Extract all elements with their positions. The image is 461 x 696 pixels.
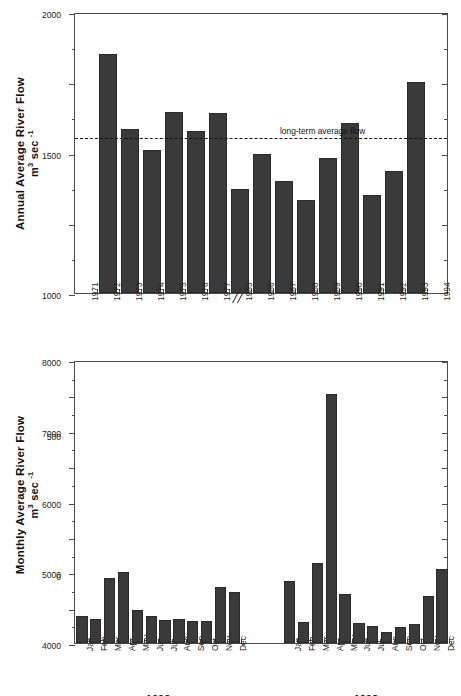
y-axis-minor-tick-right: [444, 380, 447, 381]
y-axis-tick-right: [442, 397, 447, 398]
y-axis-tick-label: 4000: [42, 641, 61, 651]
x-axis-label: 1971: [90, 282, 100, 301]
y-axis-tick: 1500: [69, 84, 75, 85]
axis-break-marker: [232, 287, 248, 303]
y-axis-minor-tick: [72, 557, 76, 558]
y-axis-minor-tick: [72, 415, 76, 416]
y-axis-tick-right: [442, 539, 447, 540]
x-axis-label: 1991: [376, 282, 386, 301]
x-axis-label: 1972: [112, 282, 122, 301]
y-axis-minor-tick: [72, 260, 76, 261]
y-axis-tick-label: 7000: [42, 429, 61, 439]
y-axis-minor-tick-right: [444, 190, 447, 191]
bar: [187, 131, 205, 293]
x-axis-label: Dec: [238, 636, 248, 651]
y-axis-tick: 1000: [69, 610, 75, 611]
y-axis-tick: 8000: [69, 362, 75, 363]
y-axis-minor-tick-right: [444, 521, 447, 522]
bar: [143, 150, 161, 293]
y-axis-tick-right: [442, 468, 447, 469]
x-axis-label: 1986: [266, 282, 276, 301]
x-axis-label: Dec: [446, 636, 456, 651]
y-axis-tick-label: 5000: [42, 570, 61, 580]
y-axis-minor-tick: [72, 592, 76, 593]
x-axis-label: 1987: [288, 282, 298, 301]
bar: [215, 587, 226, 643]
x-axis-label: 1993: [420, 282, 430, 301]
y-axis-minor-tick-right: [444, 415, 447, 416]
y-axis-tick-label: 1000: [42, 291, 61, 301]
y-axis-tick: 500: [69, 225, 75, 226]
y-axis-tick: 5000: [69, 468, 75, 469]
x-axis-label: 1990: [354, 282, 364, 301]
bar: [363, 195, 381, 293]
y-axis-tick-label: 6000: [42, 500, 61, 510]
monthly-y-axis-title-line2: m3 sec -1: [26, 350, 40, 640]
monthly-flow-figure: Monthly Average River Flow m3 sec -1 010…: [0, 340, 461, 696]
bar: [209, 113, 227, 293]
x-axis-label: 1989: [332, 282, 342, 301]
y-axis-tick: 7000: [69, 397, 75, 398]
y-axis-minor-tick-right: [444, 119, 447, 120]
y-axis-tick-right: [442, 14, 447, 15]
y-axis-minor-tick: [72, 380, 76, 381]
y-axis-tick-right: [442, 504, 447, 505]
bar: [121, 129, 139, 293]
bar: [284, 581, 295, 643]
y-axis-tick-right: [442, 84, 447, 85]
y-axis-minor-tick-right: [444, 49, 447, 50]
annual-y-axis-title-line1: Annual Average River Flow: [14, 77, 26, 230]
bar: [231, 189, 249, 293]
y-axis-minor-tick: [72, 486, 76, 487]
bar: [407, 82, 425, 293]
x-axis-label: 1976: [200, 282, 210, 301]
y-axis-minor-tick: [72, 521, 76, 522]
y-axis-tick: 6000: [69, 433, 75, 434]
x-axis-label: 1974: [156, 282, 166, 301]
y-axis-tick-right: [442, 433, 447, 434]
y-axis-minor-tick-right: [444, 260, 447, 261]
bar: [312, 563, 323, 643]
y-axis-minor-tick: [72, 119, 76, 120]
y-axis-tick: 2000: [69, 574, 75, 575]
bar: [341, 123, 359, 293]
y-axis-tick: 1000: [69, 155, 75, 156]
long-term-average-line: [75, 138, 447, 139]
y-axis-tick-right: [442, 155, 447, 156]
x-axis-label: 1994: [442, 282, 452, 301]
y-axis-minor-tick-right: [444, 450, 447, 451]
annual-flow-figure: Annual Average River Flow m3 sec -1 0500…: [0, 0, 461, 340]
annual-y-axis-title-line2: m3 sec -1: [26, 13, 40, 294]
bar: [297, 200, 315, 293]
y-axis-tick-right: [442, 362, 447, 363]
x-axis-label: 1988: [310, 282, 320, 301]
x-axis-label: 1992: [398, 282, 408, 301]
y-axis-tick-label: 1500: [42, 151, 61, 161]
x-axis-label: 1975: [178, 282, 188, 301]
y-axis-tick-right: [442, 225, 447, 226]
x-axis-label: 1973: [134, 282, 144, 301]
y-axis-tick: 2000: [69, 14, 75, 15]
bar: [436, 569, 447, 643]
long-term-average-label: long-term average flow: [280, 126, 365, 136]
y-axis-minor-tick: [72, 49, 76, 50]
y-axis-minor-tick: [72, 190, 76, 191]
bar: [275, 181, 293, 293]
bar: [385, 171, 403, 293]
bar: [118, 572, 129, 643]
monthly-plot-area: 010002000300040005000600070008000JanFebM…: [74, 361, 448, 644]
monthly-y-axis-title-line1: Monthly Average River Flow: [14, 416, 26, 574]
bar: [165, 112, 183, 293]
y-axis-tick: 0: [69, 645, 75, 646]
y-axis-minor-tick: [72, 450, 76, 451]
y-axis-tick-label: 8000: [42, 358, 61, 368]
bar: [326, 394, 337, 643]
y-axis-tick-label: 2000: [42, 10, 61, 20]
bar: [104, 578, 115, 643]
x-axis-label: 1977: [222, 282, 232, 301]
y-axis-minor-tick-right: [444, 557, 447, 558]
annual-y-axis-title: Annual Average River Flow m3 sec -1: [14, 13, 40, 294]
y-axis-minor-tick: [72, 627, 76, 628]
bar: [319, 158, 337, 293]
annual-plot-area: 0500100015002000197119721973197419751976…: [74, 13, 448, 294]
